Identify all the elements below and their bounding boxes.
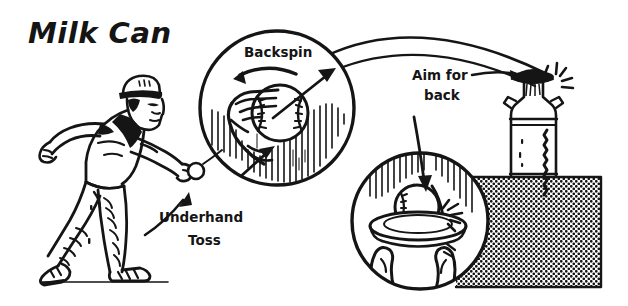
milk-can-illustration: Milk Can Backspin Aim for back Underhand… xyxy=(0,0,628,306)
aim-for-back-label-line2: back xyxy=(424,87,461,103)
underhand-toss-label-line1: Underhand xyxy=(159,209,243,225)
backspin-label: Backspin xyxy=(244,44,312,60)
illustration-canvas: Milk Can Backspin Aim for back Underhand… xyxy=(0,0,628,306)
baseball-in-hand xyxy=(188,163,204,179)
page-title: Milk Can xyxy=(28,16,172,50)
underhand-toss-label-line2: Toss xyxy=(188,232,221,248)
aim-for-back-label-line1: Aim for xyxy=(412,67,468,83)
impact-detail-circle xyxy=(352,153,488,290)
